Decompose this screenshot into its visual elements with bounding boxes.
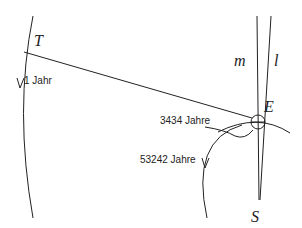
label-E: E xyxy=(264,98,274,116)
diagram-canvas: T m l E S 1 Jahr 3434 Jahre 53242 Jahre xyxy=(0,0,302,228)
label-l: l xyxy=(274,52,278,70)
label-S: S xyxy=(251,208,259,226)
label-T: T xyxy=(34,32,43,50)
line-T-E xyxy=(24,52,252,118)
label-m: m xyxy=(234,52,246,70)
orbit-arc-large xyxy=(203,125,242,218)
label-53242-jahre: 53242 Jahre xyxy=(140,154,196,165)
diagram-drawing xyxy=(0,0,302,228)
arrow-icon xyxy=(17,78,24,88)
label-1-jahr: 1 Jahr xyxy=(24,75,52,86)
label-3434-jahre: 3434 Jahre xyxy=(160,115,210,126)
line-m xyxy=(257,16,259,200)
earth-orbit-arc xyxy=(24,16,34,218)
loop-curve xyxy=(205,127,253,137)
